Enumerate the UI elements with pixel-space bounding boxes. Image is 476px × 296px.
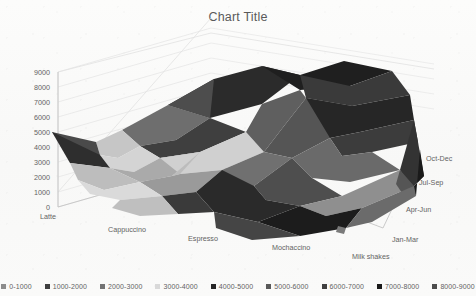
- legend-swatch-icon: [155, 284, 160, 289]
- legend-swatch-icon: [211, 284, 216, 289]
- series-label-apr-jun: Apr-Jun: [406, 205, 431, 214]
- legend-label: 3000-4000: [163, 283, 197, 290]
- ztick-5000: 5000: [34, 128, 50, 137]
- legend-item[interactable]: 3000-4000: [155, 283, 197, 290]
- legend-item[interactable]: 8000-9000: [432, 283, 474, 290]
- legend-item[interactable]: 5000-6000: [266, 283, 308, 290]
- series-label-jan-mar: Jan-Mar: [392, 235, 419, 244]
- legend-swatch-icon: [1, 284, 6, 289]
- category-label-espresso: Espresso: [188, 234, 218, 243]
- legend-item[interactable]: 1000-2000: [45, 283, 87, 290]
- surface-plot: 9000 8000 7000 6000 5000 4000 3000 2000 …: [0, 0, 476, 268]
- legend-label: 6000-7000: [330, 283, 364, 290]
- ztick-7000: 7000: [34, 98, 50, 107]
- legend-item[interactable]: 6000-7000: [322, 283, 364, 290]
- legend-swatch-icon: [322, 284, 327, 289]
- ztick-6000: 6000: [34, 113, 50, 122]
- category-label-milk-shakes: Milk shakes: [352, 252, 390, 261]
- legend-item[interactable]: 2000-3000: [100, 283, 142, 290]
- legend-swatch-icon: [100, 284, 105, 289]
- legend-label: 1000-2000: [53, 283, 87, 290]
- legend-swatch-icon: [377, 284, 382, 289]
- series-label-oct-dec: Oct-Dec: [426, 154, 453, 163]
- category-label-mochaccino: Mochaccino: [272, 243, 310, 252]
- legend-label: 8000-9000: [440, 283, 474, 290]
- ztick-8000: 8000: [34, 83, 50, 92]
- chart-legend: 0-1000 1000-2000 2000-3000 3000-4000 400…: [0, 283, 476, 290]
- legend-swatch-icon: [266, 284, 271, 289]
- ztick-3000: 3000: [34, 158, 50, 167]
- legend-item[interactable]: 7000-8000: [377, 283, 419, 290]
- ztick-4000: 4000: [34, 143, 50, 152]
- legend-item[interactable]: 0-1000: [1, 283, 31, 290]
- legend-swatch-icon: [432, 284, 437, 289]
- chart-container: Chart Title: [0, 0, 476, 296]
- legend-swatch-icon: [45, 284, 50, 289]
- ztick-9000: 9000: [34, 68, 50, 77]
- legend-label: 5000-6000: [274, 283, 308, 290]
- legend-label: 4000-5000: [219, 283, 253, 290]
- category-label-latte: Latte: [40, 212, 56, 221]
- zaxis-ticklabels: 9000 8000 7000 6000 5000 4000 3000 2000 …: [34, 68, 50, 212]
- legend-label: 0-1000: [9, 283, 31, 290]
- legend-item[interactable]: 4000-5000: [211, 283, 253, 290]
- series-label-jul-sep: Jul-Sep: [419, 178, 443, 187]
- legend-label: 7000-8000: [385, 283, 419, 290]
- legend-label: 2000-3000: [108, 283, 142, 290]
- category-label-cappuccino: Cappuccino: [108, 225, 146, 234]
- ztick-1000: 1000: [34, 188, 50, 197]
- ztick-2000: 2000: [34, 173, 50, 182]
- ztick-0: 0: [46, 203, 50, 212]
